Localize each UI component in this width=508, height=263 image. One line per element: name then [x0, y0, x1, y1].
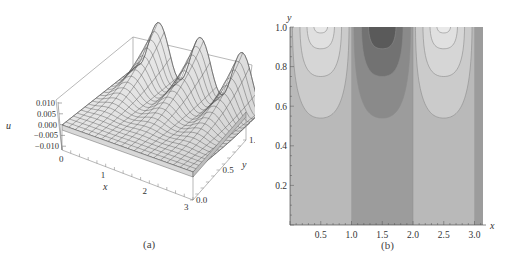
- x-tick-label: 1: [101, 170, 106, 180]
- z-tick-label: 0.000: [38, 120, 57, 130]
- x-tick-label: 0: [59, 154, 64, 164]
- x-tick-label: 0.5: [315, 230, 327, 240]
- z-tick-label: 0.005: [37, 109, 56, 119]
- contour-x-label: x: [489, 220, 495, 231]
- y-tick-label: 0.0: [196, 195, 208, 205]
- x-tick-label: 1.0: [346, 230, 358, 240]
- caption-b: (b): [381, 239, 394, 251]
- contour-plot-panel: 0.51.01.52.02.53.0 0.20.40.60.81.0 x y (…: [255, 0, 508, 263]
- x-tick-label: 3: [184, 202, 189, 212]
- contour-regions: [290, 23, 483, 225]
- z-tick-label: 0.010: [36, 98, 55, 108]
- y-tick-label: 0.6: [275, 102, 287, 112]
- z-axis-label: u: [6, 120, 11, 131]
- x-tick-label: 2.0: [407, 230, 419, 240]
- y-tick-label: 0.2: [275, 181, 287, 191]
- x-tick-label: 2.5: [438, 230, 450, 240]
- x-tick-label: 3.0: [469, 230, 481, 240]
- x-tick-label: 2: [142, 186, 147, 196]
- y-tick-label: 0.8: [275, 62, 287, 72]
- surface-plot: 0.0100.0050.000−0.005−0.010 u 0123 x 0.0…: [0, 0, 255, 263]
- caption-a: (a): [143, 238, 155, 250]
- contour-band: [475, 27, 484, 225]
- surface-mesh: [62, 23, 255, 178]
- z-tick-label: −0.005: [34, 130, 58, 140]
- y-tick-label: 1.0: [275, 23, 287, 33]
- x-axis-label: x: [102, 181, 108, 192]
- z-tick-label: −0.010: [35, 141, 59, 151]
- y-tick-label: 0.4: [275, 141, 287, 151]
- y-tick-label: 0.5: [223, 165, 235, 175]
- contour-y-label: y: [286, 12, 292, 23]
- contour-plot: 0.51.01.52.02.53.0 0.20.40.60.81.0 x y: [255, 0, 508, 263]
- y-axis-label: y: [241, 159, 247, 170]
- surface-plot-panel: 0.0100.0050.000−0.005−0.010 u 0123 x 0.0…: [0, 0, 255, 263]
